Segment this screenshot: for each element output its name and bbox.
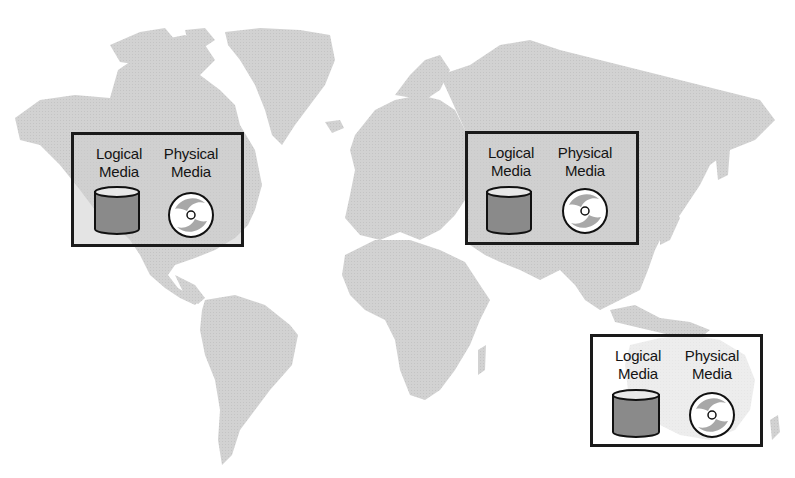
cylinder-icon: [485, 186, 533, 236]
site-box-australia: Logical Media Physical Media: [590, 334, 763, 447]
physical-media-label: Physical Media: [548, 144, 622, 180]
disc-icon: [688, 391, 736, 439]
logical-media-label: Logical Media: [476, 144, 546, 180]
africa-landmass: [342, 240, 490, 400]
greenland-landmass: [225, 28, 335, 145]
cylinder-icon: [93, 186, 141, 236]
physical-media-label: Physical Media: [156, 145, 226, 181]
logical-media-label: Logical Media: [84, 145, 154, 181]
site-box-north-america: Logical Media Physical Media: [71, 132, 244, 247]
cylinder-icon: [611, 389, 661, 439]
physical-media-label: Physical Media: [675, 347, 749, 383]
site-box-asia: Logical Media Physical Media: [465, 131, 639, 245]
disc-icon: [561, 187, 609, 235]
disc-icon: [167, 191, 215, 239]
logical-media-label: Logical Media: [603, 347, 673, 383]
south-america-landmass: [200, 295, 298, 465]
